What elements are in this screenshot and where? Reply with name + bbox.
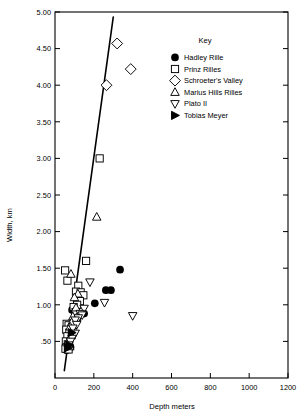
legend-label: Prinz Rilles: [184, 65, 221, 74]
y-tick-label: 4.00: [37, 81, 51, 90]
chart-figure: 020040060080010001200 .501.001.502.002.5…: [0, 0, 299, 419]
scatter-plot: 020040060080010001200 .501.001.502.002.5…: [0, 0, 299, 419]
legend-marker-open-triangle-down: [171, 101, 179, 109]
x-tick-label: 1200: [280, 383, 296, 392]
legend-title: Key: [198, 36, 211, 45]
data-point: [64, 277, 71, 284]
legend-label: Hadley Rille: [184, 53, 223, 62]
x-tick-label: 200: [88, 383, 100, 392]
legend-marker-open-diamond: [170, 75, 181, 86]
data-point: [82, 257, 89, 264]
x-tick-label: 600: [165, 383, 177, 392]
data-point: [100, 299, 108, 307]
series-prinz-rilles: [62, 155, 104, 353]
data-point: [116, 266, 124, 274]
legend-label: Tobias Meyer: [184, 111, 228, 120]
legend-marker-open-triangle-up: [171, 88, 179, 96]
y-axis-title: Width, km: [5, 208, 14, 242]
x-tick-label: 0: [53, 383, 57, 392]
data-point: [112, 38, 123, 49]
data-point: [96, 155, 103, 162]
y-tick-label: 3.00: [37, 154, 51, 163]
data-point: [128, 313, 136, 321]
y-tick-label: 4.50: [37, 44, 51, 53]
y-tick-label: 1.00: [37, 301, 51, 310]
legend-marker-filled-triangle-right: [172, 111, 180, 119]
y-tick-label: 3.50: [37, 118, 51, 127]
legend-label: Marius Hills Rilles: [184, 88, 243, 97]
x-axis-title: Depth meters: [149, 402, 195, 411]
data-point: [93, 212, 101, 220]
data-point: [91, 299, 99, 307]
x-tick-label: 400: [126, 383, 138, 392]
data-point: [107, 286, 115, 294]
y-tick-label: 5.00: [37, 8, 51, 17]
data-point: [125, 64, 136, 75]
y-tick-label: 2.00: [37, 227, 51, 236]
chart-legend: KeyHadley RillePrinz RillesSchroeter's V…: [170, 36, 244, 120]
legend-label: Plato II: [184, 99, 207, 108]
x-axis-ticks: 020040060080010001200: [53, 373, 296, 392]
y-tick-label: 1.50: [37, 264, 51, 273]
x-tick-label: 800: [204, 383, 216, 392]
legend-label: Schroeter's Valley: [184, 76, 243, 85]
data-point: [86, 279, 94, 287]
data-point: [62, 267, 69, 274]
x-tick-label: 1000: [241, 383, 257, 392]
data-points: [62, 38, 137, 354]
y-tick-label: .50: [41, 337, 51, 346]
legend-marker-open-square: [171, 65, 178, 72]
legend-marker-filled-circle: [171, 54, 179, 62]
y-tick-label: 2.50: [37, 191, 51, 200]
